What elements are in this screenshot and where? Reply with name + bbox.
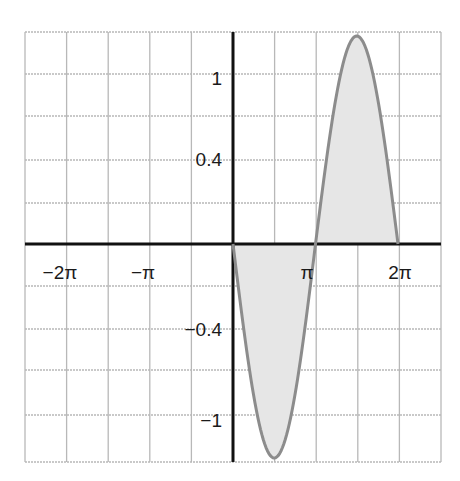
y-tick-label-neg-0-4: −0.4	[184, 319, 222, 340]
function-plot: −2π −π π 2π 1 0.4 −0.4 −1	[0, 0, 460, 481]
y-tick-labels: 1 0.4 −0.4 −1	[184, 68, 222, 431]
x-tick-label-2pi: 2π	[388, 262, 412, 283]
y-tick-label-neg-1: −1	[200, 410, 222, 431]
x-tick-labels: −2π −π π 2π	[43, 262, 412, 283]
x-tick-label-neg-pi: −π	[131, 262, 155, 283]
y-tick-label-0-4: 0.4	[196, 149, 223, 170]
x-tick-label-neg-2pi: −2π	[43, 262, 78, 283]
y-tick-label-1: 1	[211, 68, 222, 89]
x-tick-label-pi: π	[300, 262, 313, 283]
